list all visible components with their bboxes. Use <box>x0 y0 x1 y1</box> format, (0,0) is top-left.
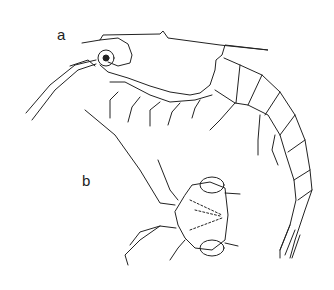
shrimp-lateral-view <box>26 31 312 258</box>
shrimp-illustration <box>0 0 334 290</box>
shrimp-head-dorsal-view <box>85 110 240 265</box>
